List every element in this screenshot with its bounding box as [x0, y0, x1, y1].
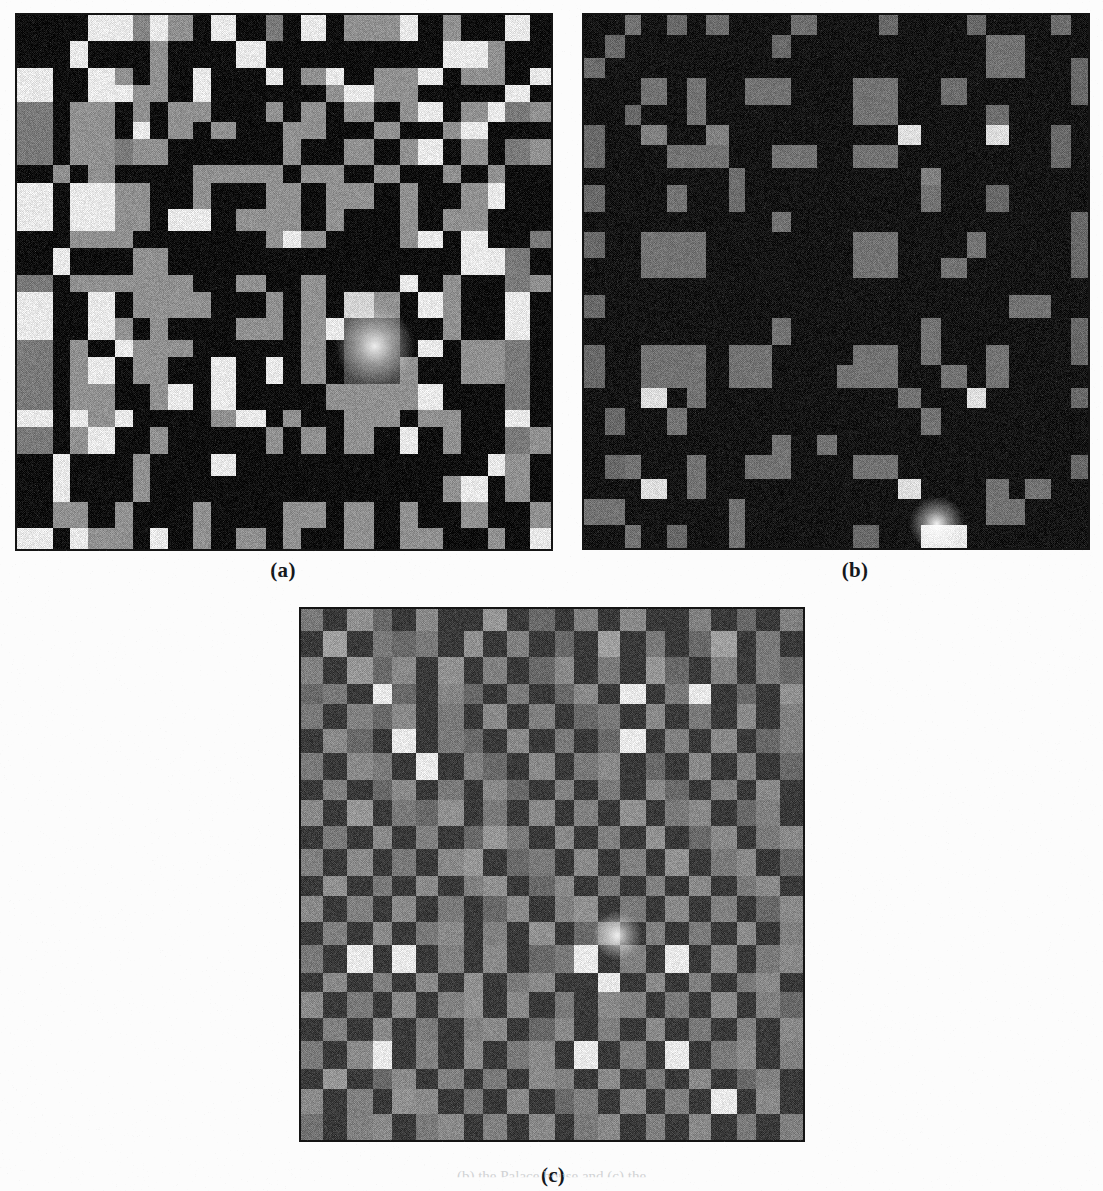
matrix-canvas-c [301, 609, 803, 1140]
matrix-panel-c [299, 607, 805, 1142]
matrix-panel-b [582, 13, 1090, 550]
matrix-canvas-b [584, 15, 1088, 548]
matrix-canvas-a [17, 15, 551, 549]
figure-root: (a) (b) (c) (b) the Palace house and (c)… [0, 0, 1103, 1191]
panel-label-a: (a) [223, 558, 343, 583]
panel-label-b: (b) [795, 558, 915, 583]
matrix-panel-a [15, 13, 553, 551]
